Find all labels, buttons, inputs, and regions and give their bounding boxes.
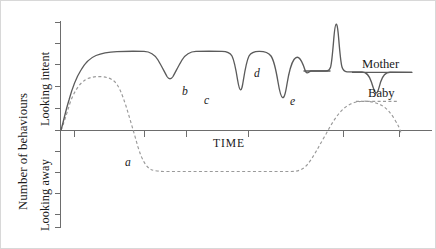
- figure-container: Number of behaviours Looking intent Look…: [0, 0, 436, 249]
- annotation-a: a: [125, 156, 131, 169]
- annotation-c: c: [204, 94, 209, 107]
- annotation-e: e: [290, 95, 295, 108]
- y-axis-ticks-lower: [55, 152, 61, 228]
- annotation-b: b: [182, 85, 188, 98]
- annotation-d: d: [254, 67, 260, 80]
- y-axis-outer-label: Number of behaviours: [16, 93, 31, 210]
- legend-label-baby: Baby: [368, 86, 395, 101]
- x-axis-ticks: [75, 131, 400, 137]
- series-curve-baby: [61, 77, 401, 172]
- x-axis-label: TIME: [213, 137, 245, 150]
- series-curve-mother: [61, 24, 412, 130]
- y-axis-upper-label: Looking intent: [38, 52, 53, 126]
- plot-area: [0, 0, 436, 249]
- y-axis-ticks-upper: [55, 23, 61, 109]
- y-axis-lower-label: Looking away: [38, 159, 53, 231]
- legend-label-mother: Mother: [362, 57, 399, 72]
